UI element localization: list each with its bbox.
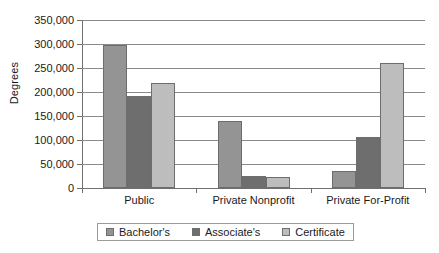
bar: [218, 121, 242, 188]
y-axis-tick: [77, 116, 82, 117]
bar-group: [218, 20, 290, 188]
bar-group: [332, 20, 404, 188]
x-axis-line: [82, 188, 425, 189]
y-axis-tick-label: 150,000: [8, 111, 74, 122]
y-axis-tick-label: 100,000: [8, 135, 74, 146]
legend-entry: Associate's: [192, 227, 260, 238]
legend-entry: Certificate: [282, 227, 345, 238]
bar: [266, 177, 290, 188]
y-axis-line: [82, 20, 83, 188]
legend-swatch-icon: [192, 228, 200, 236]
chart-legend: Bachelor'sAssociate'sCertificate: [97, 223, 354, 241]
y-axis-tick: [77, 140, 82, 141]
plot-area: [82, 20, 425, 188]
y-axis-tick-labels: 050,000100,000150,000200,000250,000300,0…: [8, 20, 74, 188]
x-axis-tick: [82, 188, 83, 193]
bar: [151, 83, 175, 188]
legend-label: Certificate: [295, 227, 345, 238]
x-axis-category-label: Public: [82, 194, 196, 207]
y-axis-tick: [77, 44, 82, 45]
bar: [242, 176, 266, 188]
y-axis-tick-label: 50,000: [8, 159, 74, 170]
x-axis-tick: [196, 188, 197, 193]
bar-group: [103, 20, 175, 188]
plot-inner: [82, 20, 425, 188]
legend-swatch-icon: [282, 228, 290, 236]
bar: [103, 45, 127, 188]
y-axis-tick: [77, 92, 82, 93]
bar-chart: Degrees 050,000100,000150,000200,000250,…: [0, 0, 439, 253]
y-axis-tick: [77, 164, 82, 165]
y-axis-tick-label: 350,000: [8, 15, 74, 26]
x-axis-category-label: Private For-Profit: [311, 194, 425, 207]
legend-label: Bachelor's: [119, 227, 170, 238]
y-axis-tick-label: 0: [8, 183, 74, 194]
x-axis-tick: [425, 188, 426, 193]
y-axis-tick: [77, 20, 82, 21]
bar: [127, 96, 151, 188]
y-axis-tick-label: 250,000: [8, 63, 74, 74]
y-axis-tick-label: 300,000: [8, 39, 74, 50]
x-axis-category-label: Private Nonprofit: [196, 194, 310, 207]
y-axis-tick-label: 200,000: [8, 87, 74, 98]
bar: [332, 171, 356, 188]
bar: [356, 137, 380, 188]
legend-swatch-icon: [106, 228, 114, 236]
x-axis-tick: [311, 188, 312, 193]
y-axis-tick: [77, 68, 82, 69]
legend-label: Associate's: [205, 227, 260, 238]
bar: [380, 63, 404, 188]
legend-entry: Bachelor's: [106, 227, 170, 238]
x-axis-category-labels: PublicPrivate NonprofitPrivate For-Profi…: [82, 194, 425, 210]
